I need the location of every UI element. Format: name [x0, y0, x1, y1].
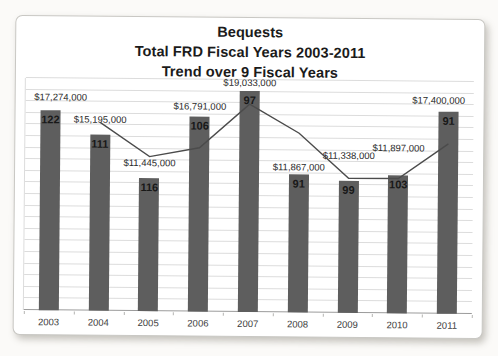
bar-count-label-2005: 116	[139, 181, 159, 193]
x-axis-label-2007: 2007	[223, 318, 273, 329]
x-axis-tick	[223, 313, 224, 316]
bar-2006: 106	[188, 117, 210, 312]
x-axis-tick	[372, 314, 373, 317]
bar-count-label-2008: 91	[289, 178, 309, 190]
bar-2004: 111	[88, 134, 110, 310]
bar-2010: 103	[387, 175, 408, 313]
bar-2005: 116	[138, 178, 159, 311]
bar-value-label-2007: $19,033,000	[210, 77, 290, 89]
x-axis-tick	[322, 314, 323, 317]
chart-card: Bequests Total FRD Fiscal Years 2003-201…	[13, 15, 486, 339]
x-axis-tick	[24, 311, 25, 314]
bar-value-label-2011: $17,400,000	[399, 94, 479, 106]
bar-2009: 99	[337, 181, 358, 313]
x-axis-label-2009: 2009	[322, 319, 372, 330]
bar-count-label-2006: 106	[190, 120, 210, 132]
x-axis-label-2011: 2011	[422, 320, 472, 331]
bar-count-label-2007: 97	[240, 94, 260, 106]
x-axis-tick	[173, 312, 174, 315]
bar-value-label-2008: $11,867,000	[259, 161, 339, 173]
bar-value-label-2010: $11,897,000	[359, 142, 439, 154]
bar-value-label-2003: $17,274,000	[21, 91, 101, 103]
page-background: { "page": { "background_color": "#fbfaf8…	[0, 0, 498, 356]
x-axis-tick	[273, 313, 274, 316]
bar-value-label-2004: $15,195,000	[60, 113, 140, 125]
x-axis-tick	[422, 315, 423, 318]
bar-count-label-2004: 111	[90, 137, 110, 149]
x-axis-label-2003: 2003	[24, 316, 74, 327]
x-axis-tick	[123, 312, 124, 315]
bar-value-label-2005: $11,445,000	[110, 157, 190, 169]
bar-2003: 122	[39, 110, 61, 311]
bar-count-label-2011: 91	[439, 115, 459, 127]
bar-value-label-2006: $16,791,000	[160, 100, 240, 112]
x-axis-tick	[74, 311, 75, 314]
plot-area: 122$17,274,0002003111$15,195,0002004116$…	[23, 78, 474, 314]
chart-title: Bequests Total FRD Fiscal Years 2003-201…	[16, 20, 485, 84]
x-axis-tick	[472, 315, 473, 318]
bar-count-label-2009: 99	[338, 184, 358, 196]
bar-count-label-2003: 122	[40, 113, 60, 125]
x-axis-label-2005: 2005	[123, 317, 173, 328]
bar-2008: 91	[288, 175, 309, 313]
bar-count-label-2010: 103	[388, 178, 408, 190]
x-axis-label-2006: 2006	[173, 317, 223, 328]
bar-2007: 97	[238, 91, 260, 312]
x-axis-label-2004: 2004	[73, 316, 123, 327]
bar-2011: 91	[437, 112, 459, 314]
x-axis-label-2008: 2008	[272, 318, 322, 329]
x-axis-label-2010: 2010	[372, 319, 422, 330]
